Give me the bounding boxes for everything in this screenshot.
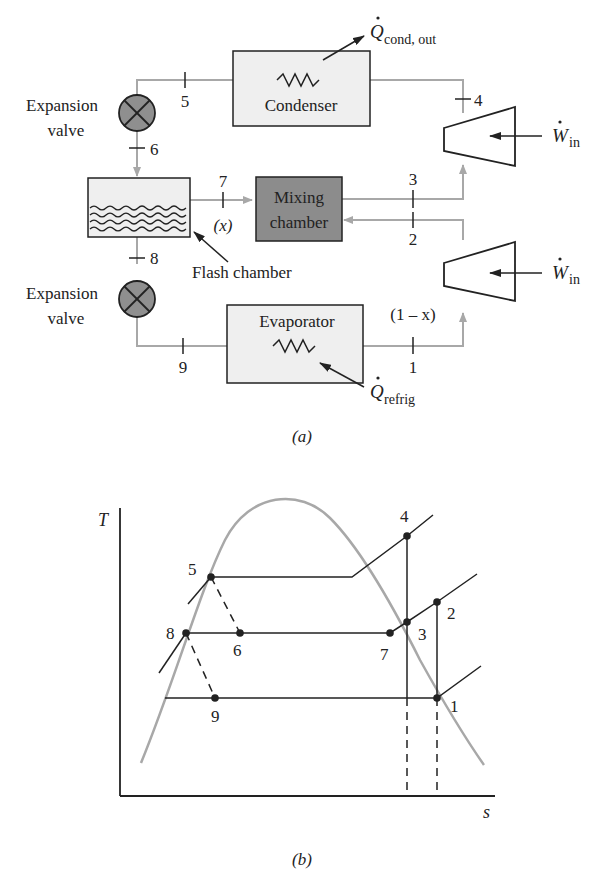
compressor-top — [444, 107, 542, 166]
point-6 — [236, 629, 244, 637]
point-3 — [403, 618, 411, 626]
point-5 — [207, 573, 215, 581]
point-8 — [182, 629, 190, 637]
schematic-diagram: Condenser Q cond, out W in W in — [26, 16, 580, 446]
point-1 — [433, 694, 441, 702]
state-4: 4 — [474, 91, 483, 110]
evaporator: Evaporator — [227, 305, 363, 383]
expansion-valve-top-label: Expansion — [26, 96, 98, 115]
expansion-valve-bottom-label-2: valve — [48, 309, 85, 328]
point-9 — [211, 694, 219, 702]
svg-text:7: 7 — [380, 645, 389, 664]
caption-a: (a) — [292, 427, 312, 446]
svg-text:cond, out: cond, out — [384, 32, 436, 47]
flash-chamber-pointer-icon — [194, 232, 228, 262]
figure-canvas: Condenser Q cond, out W in W in — [0, 0, 604, 893]
point-2 — [433, 598, 441, 606]
process-lines — [159, 515, 481, 698]
y-axis-label: T — [98, 510, 110, 530]
state-2: 2 — [409, 230, 418, 249]
state-points — [182, 532, 441, 702]
svg-text:Q: Q — [370, 21, 384, 42]
condenser-label: Condenser — [265, 96, 338, 115]
w-in-bottom-label: W in — [552, 257, 580, 287]
svg-text:Evaporator: Evaporator — [259, 312, 335, 331]
svg-text:3: 3 — [418, 625, 427, 644]
svg-text:5: 5 — [188, 560, 197, 579]
svg-text:Mixing: Mixing — [274, 188, 325, 207]
w-in-top-label: W in — [552, 120, 580, 150]
state-6: 6 — [150, 140, 159, 159]
ts-diagram: T s — [98, 499, 495, 869]
point-7 — [386, 629, 394, 637]
expansion-valve-bottom — [119, 281, 155, 317]
svg-text:W: W — [552, 125, 570, 146]
point-4 — [403, 532, 411, 540]
caption-b: (b) — [292, 850, 312, 869]
svg-text:refrig: refrig — [384, 392, 415, 407]
expansion-valve-top-label-2: valve — [48, 121, 85, 140]
flash-chamber-label: Flash chamber — [192, 263, 292, 282]
state-5: 5 — [181, 92, 190, 111]
svg-text:6: 6 — [233, 641, 242, 660]
condenser: Condenser — [233, 51, 370, 126]
svg-text:4: 4 — [400, 507, 409, 526]
state-1: 1 — [409, 358, 418, 377]
q-cond-out-label: Q cond, out — [370, 16, 436, 47]
svg-text:chamber: chamber — [270, 213, 329, 232]
svg-text:W: W — [552, 262, 570, 283]
expansion-valve-top — [119, 95, 155, 131]
svg-text:1: 1 — [450, 697, 459, 716]
svg-text:Q: Q — [370, 381, 384, 402]
q-refrig-label: Q refrig — [370, 376, 415, 407]
svg-text:9: 9 — [211, 707, 220, 726]
saturation-dome — [141, 499, 484, 765]
dashed-lines — [186, 577, 437, 796]
svg-text:2: 2 — [447, 604, 456, 623]
state-3: 3 — [409, 170, 418, 189]
x-axis-label: s — [483, 802, 490, 822]
svg-text:8: 8 — [166, 624, 175, 643]
mass-fraction-x: (x) — [214, 216, 233, 235]
compressor-bottom — [444, 242, 542, 301]
pipe-2 — [344, 220, 463, 240]
svg-text:in: in — [569, 272, 580, 287]
svg-text:in: in — [569, 135, 580, 150]
mass-fraction-1-minus-x: (1 – x) — [390, 305, 435, 324]
pipe-3 — [342, 165, 463, 199]
flash-chamber — [88, 178, 190, 237]
state-9: 9 — [179, 358, 188, 377]
expansion-valve-bottom-label: Expansion — [26, 284, 98, 303]
state-8: 8 — [150, 249, 159, 268]
state-7: 7 — [219, 172, 228, 191]
mixing-chamber: Mixing chamber — [256, 177, 342, 241]
